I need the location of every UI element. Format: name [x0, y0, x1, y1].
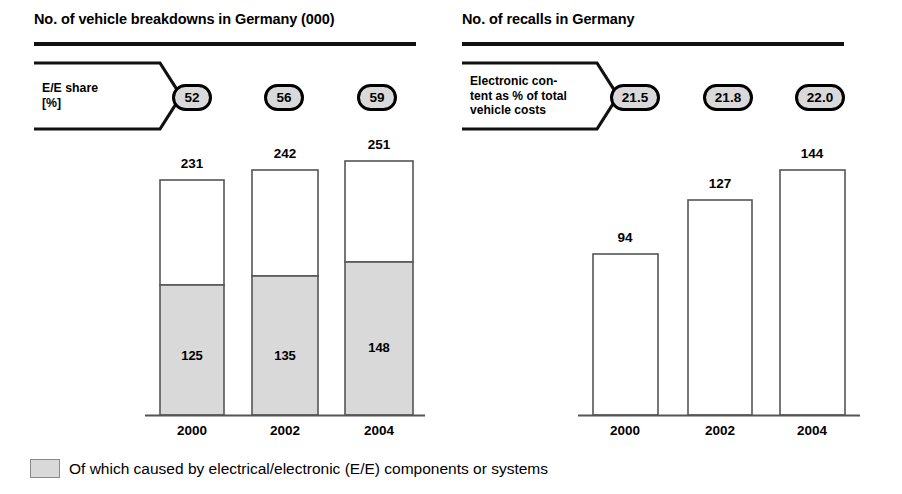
bar-total-2002-left: 242	[274, 146, 297, 161]
bar-total-2004-left: 251	[368, 137, 391, 152]
chart-figure: No. of vehicle breakdowns in Germany (00…	[0, 0, 902, 494]
x-label-2002-left: 2002	[270, 423, 300, 438]
bar-total-2004-right: 144	[801, 146, 824, 161]
panel-vehicle-breakdowns: No. of vehicle breakdowns in Germany (00…	[0, 0, 450, 440]
x-label-2002-right: 2002	[705, 423, 735, 438]
bar-total-2000-right: 94	[617, 230, 632, 245]
bar-segment-2000-left: 125	[181, 348, 203, 363]
bar-segment-2004-left: 148	[368, 340, 390, 355]
plot-area-left: 231 242 251 125 135 148 2000 2002 2004	[0, 0, 450, 440]
legend-swatch-ee-caused	[30, 459, 60, 478]
x-label-2000-left: 2000	[177, 423, 207, 438]
x-label-2004-right: 2004	[797, 423, 827, 438]
legend: Of which caused by electrical/electronic…	[30, 459, 548, 478]
x-label-2000-right: 2000	[610, 423, 640, 438]
bar-total-2002-right: 127	[709, 176, 732, 191]
bar-total-2000-left: 231	[181, 156, 204, 171]
legend-label-ee-caused: Of which caused by electrical/electronic…	[69, 460, 548, 478]
x-label-2004-left: 2004	[364, 423, 394, 438]
bar-segment-2002-left: 135	[274, 348, 296, 363]
plot-area-right: 94 127 144 2000 2002 2004	[450, 0, 902, 440]
panel-recalls: No. of recalls in Germany Electronic con…	[450, 0, 902, 440]
